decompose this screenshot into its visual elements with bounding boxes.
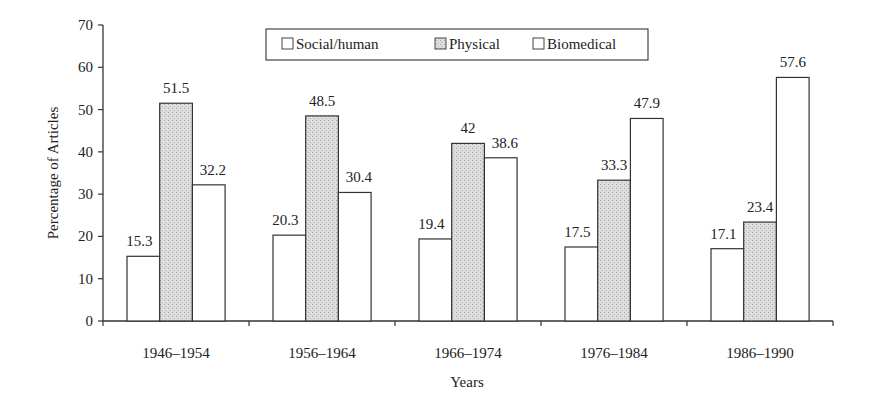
y-tick-label: 40 bbox=[78, 144, 93, 160]
bar-value-label: 20.3 bbox=[272, 212, 298, 228]
legend-label: Social/human bbox=[296, 36, 379, 52]
x-tick-label: 1956–1964 bbox=[288, 345, 356, 361]
bar-social-human bbox=[711, 249, 744, 321]
bar-value-label: 17.5 bbox=[564, 224, 590, 240]
y-tick-label: 70 bbox=[78, 17, 93, 33]
bar-chart: 0102030405060701946–19541956–19641966–19… bbox=[0, 0, 871, 418]
bar-biomedical bbox=[192, 185, 225, 321]
bar-biomedical bbox=[630, 118, 663, 321]
bar-value-label: 33.3 bbox=[601, 157, 627, 173]
bar-value-label: 48.5 bbox=[309, 93, 335, 109]
legend-swatch-icon bbox=[282, 38, 293, 49]
y-axis-label: Percentage of Articles bbox=[45, 107, 61, 240]
y-tick-label: 20 bbox=[78, 228, 93, 244]
bar-physical bbox=[306, 116, 339, 321]
x-tick-label: 1946–1954 bbox=[142, 345, 210, 361]
bar-physical bbox=[598, 180, 631, 321]
bar-value-label: 30.4 bbox=[346, 169, 373, 185]
x-axis-label: Years bbox=[450, 374, 484, 390]
bar-value-label: 19.4 bbox=[418, 216, 445, 232]
y-tick-label: 60 bbox=[78, 59, 93, 75]
bars: 15.351.532.220.348.530.419.44238.617.533… bbox=[126, 54, 809, 321]
legend-swatch-icon bbox=[435, 38, 446, 49]
bar-value-label: 57.6 bbox=[780, 54, 807, 70]
x-tick-label: 1986–1990 bbox=[726, 345, 794, 361]
y-tick-label: 30 bbox=[78, 186, 93, 202]
bar-physical bbox=[744, 222, 777, 321]
bar-social-human bbox=[419, 239, 452, 321]
y-tick-label: 0 bbox=[86, 313, 94, 329]
bar-value-label: 51.5 bbox=[163, 80, 189, 96]
bar-biomedical bbox=[484, 158, 517, 321]
legend-label: Biomedical bbox=[547, 36, 616, 52]
y-tick-label: 50 bbox=[78, 102, 93, 118]
bar-value-label: 42 bbox=[461, 120, 476, 136]
bar-physical bbox=[452, 143, 485, 321]
bar-value-label: 17.1 bbox=[710, 226, 736, 242]
y-tick-label: 10 bbox=[78, 271, 93, 287]
legend: Social/humanPhysicalBiomedical bbox=[266, 29, 648, 60]
legend-swatch-icon bbox=[533, 38, 544, 49]
x-tick-label: 1976–1984 bbox=[580, 345, 648, 361]
bar-social-human bbox=[565, 247, 598, 321]
bar-value-label: 32.2 bbox=[200, 162, 226, 178]
bar-social-human bbox=[273, 235, 306, 321]
bar-social-human bbox=[127, 256, 160, 321]
bar-biomedical bbox=[338, 192, 371, 321]
bar-value-label: 38.6 bbox=[492, 135, 519, 151]
bar-value-label: 15.3 bbox=[126, 233, 152, 249]
bar-value-label: 23.4 bbox=[747, 199, 774, 215]
legend-label: Physical bbox=[449, 36, 500, 52]
x-tick-label: 1966–1974 bbox=[434, 345, 502, 361]
bar-value-label: 47.9 bbox=[634, 95, 660, 111]
bar-physical bbox=[160, 103, 193, 321]
bar-biomedical bbox=[776, 77, 809, 321]
